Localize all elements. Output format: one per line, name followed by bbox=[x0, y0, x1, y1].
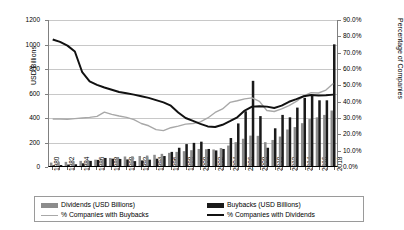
bar-buybacks-2002 bbox=[215, 150, 218, 166]
x-axis-tickmark bbox=[312, 167, 313, 170]
y-axis-left-tickmark bbox=[45, 167, 48, 168]
bar-buybacks-1981 bbox=[60, 165, 63, 166]
legend-item[interactable]: % Companies with Dividends bbox=[207, 211, 315, 219]
legend-label: Dividends (USD Billions) bbox=[61, 201, 135, 209]
bar-dividends-2001 bbox=[205, 149, 208, 166]
bar-buybacks-1992 bbox=[141, 160, 144, 166]
bar-buybacks-2015 bbox=[311, 95, 314, 166]
legend-item[interactable]: Buybacks (USD Billions) bbox=[207, 201, 301, 209]
bar-buybacks-1993 bbox=[148, 160, 151, 166]
bar-dividends-1987 bbox=[102, 159, 105, 166]
y-axis-left-tick-label: 1200 bbox=[4, 17, 40, 24]
legend-swatch-line bbox=[207, 214, 224, 216]
x-axis-tickmark bbox=[119, 167, 120, 170]
bar-dividends-1982 bbox=[65, 162, 68, 166]
bar-buybacks-1987 bbox=[104, 158, 107, 166]
bar-buybacks-2008 bbox=[259, 116, 262, 166]
y-axis-left-tick-label: 400 bbox=[4, 115, 40, 122]
y-axis-right-tickmark bbox=[338, 102, 341, 103]
y-axis-right-tick-label: 40.0% bbox=[343, 99, 383, 106]
bar-buybacks-1983 bbox=[75, 164, 78, 166]
bar-dividends-2002 bbox=[212, 149, 215, 166]
bar-buybacks-1982 bbox=[67, 165, 70, 166]
bar-dividends-1985 bbox=[87, 160, 90, 166]
x-axis-tickmark bbox=[89, 167, 90, 170]
bar-dividends-2010 bbox=[271, 140, 274, 166]
y-axis-left-tick-label: 200 bbox=[4, 140, 40, 147]
bar-dividends-1994 bbox=[153, 155, 156, 166]
bar-buybacks-2016 bbox=[318, 100, 321, 166]
x-axis-tickmark bbox=[223, 167, 224, 170]
x-axis-tickmark bbox=[267, 167, 268, 170]
bar-buybacks-2010 bbox=[274, 128, 277, 166]
legend-swatch-bar bbox=[41, 203, 58, 208]
bar-dividends-1983 bbox=[72, 161, 75, 166]
legend-label: % Companies with Dividends bbox=[227, 211, 315, 219]
y-axis-right-tick-label: 20.0% bbox=[343, 131, 383, 138]
bar-dividends-2005 bbox=[235, 142, 238, 166]
y-axis-left-tick-label: 1000 bbox=[4, 42, 40, 49]
y-axis-right-tick-label: 10.0% bbox=[343, 148, 383, 155]
x-axis-tickmark bbox=[327, 167, 328, 170]
bar-dividends-1986 bbox=[94, 160, 97, 166]
bar-dividends-2008 bbox=[257, 136, 260, 166]
x-axis-tickmark bbox=[126, 167, 127, 170]
bar-dividends-1984 bbox=[79, 161, 82, 166]
y-axis-right-tickmark bbox=[338, 69, 341, 70]
y-axis-right-tickmark bbox=[338, 36, 341, 37]
bar-dividends-2009 bbox=[264, 142, 267, 166]
bar-buybacks-1990 bbox=[126, 159, 129, 166]
y-axis-right-tick-label: 60.0% bbox=[343, 66, 383, 73]
y-axis-right-tick-label: 90.0% bbox=[343, 17, 383, 24]
bar-dividends-1981 bbox=[57, 162, 60, 166]
x-axis-tickmark bbox=[178, 167, 179, 170]
bar-buybacks-2009 bbox=[267, 148, 270, 166]
bar-dividends-1989 bbox=[116, 157, 119, 166]
bar-dividends-2006 bbox=[242, 139, 245, 166]
chart-legend: Dividends (USD Billions)Buybacks (USD Bi… bbox=[34, 196, 364, 222]
y-axis-left-tick-label: 800 bbox=[4, 66, 40, 73]
bar-buybacks-1996 bbox=[171, 152, 174, 166]
bar-buybacks-2017 bbox=[326, 100, 329, 166]
x-axis-tickmark bbox=[208, 167, 209, 170]
bar-dividends-2007 bbox=[249, 136, 252, 166]
bar-buybacks-1985 bbox=[89, 161, 92, 166]
x-axis-tickmark bbox=[74, 167, 75, 170]
line-dividends bbox=[53, 39, 334, 127]
bar-dividends-1999 bbox=[190, 150, 193, 166]
y-axis-right-tick-label: 30.0% bbox=[343, 115, 383, 122]
bar-buybacks-1998 bbox=[185, 144, 188, 166]
legend-swatch-line bbox=[41, 215, 58, 216]
bar-buybacks-2012 bbox=[289, 117, 292, 166]
y-axis-right-title: Percentage of Companies bbox=[397, 9, 404, 109]
x-axis-tickmark bbox=[148, 167, 149, 170]
bar-buybacks-2014 bbox=[303, 98, 306, 166]
y-axis-right-tickmark bbox=[338, 118, 341, 119]
plot-series bbox=[49, 20, 337, 166]
bar-dividends-2004 bbox=[227, 146, 230, 166]
bar-buybacks-2004 bbox=[230, 138, 233, 166]
bar-buybacks-2005 bbox=[237, 123, 240, 166]
legend-label: Buybacks (USD Billions) bbox=[227, 201, 301, 209]
x-axis-tickmark bbox=[59, 167, 60, 170]
y-axis-right-tick-label: 0.0% bbox=[343, 164, 383, 171]
legend-item[interactable]: % Companies with Buybacks bbox=[41, 211, 149, 219]
bar-dividends-1998 bbox=[183, 151, 186, 166]
y-axis-right-tickmark bbox=[338, 53, 341, 54]
bar-buybacks-2003 bbox=[222, 149, 225, 166]
bar-buybacks-2000 bbox=[200, 142, 203, 166]
x-axis-tickmark bbox=[163, 167, 164, 170]
bar-buybacks-1989 bbox=[119, 159, 122, 166]
x-axis-tickmark bbox=[238, 167, 239, 170]
bar-dividends-2018 bbox=[331, 111, 334, 166]
bar-dividends-2011 bbox=[279, 137, 282, 166]
bar-buybacks-2011 bbox=[281, 115, 284, 166]
x-axis-tickmark bbox=[134, 167, 135, 170]
y-axis-right-tickmark bbox=[338, 85, 341, 86]
x-axis-tickmark bbox=[297, 167, 298, 170]
bar-dividends-1997 bbox=[175, 152, 178, 166]
x-axis-tickmark bbox=[245, 167, 246, 170]
legend-item[interactable]: Dividends (USD Billions) bbox=[41, 201, 135, 209]
bar-dividends-2000 bbox=[198, 149, 201, 166]
